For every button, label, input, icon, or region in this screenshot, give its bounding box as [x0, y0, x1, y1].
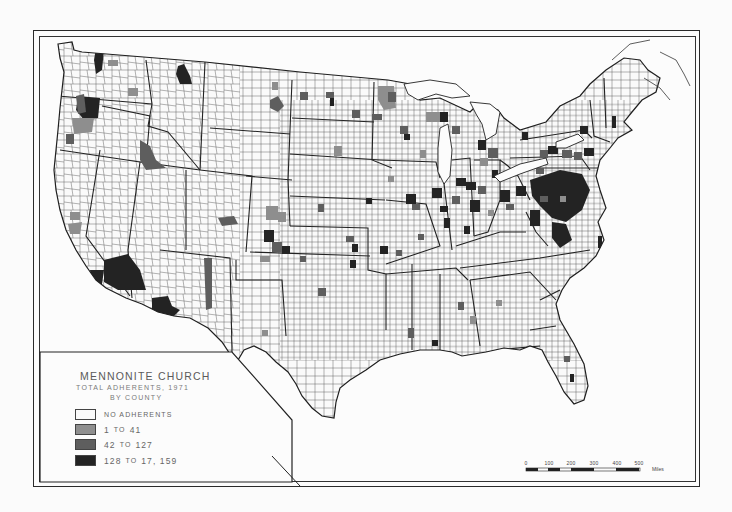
legend-label-high-to: TO	[125, 457, 137, 464]
legend-swatch-none	[75, 409, 96, 420]
scale-tick-200: 200	[566, 460, 575, 466]
scale-tick-500: 500	[634, 460, 643, 466]
legend-label-mid-max: 127	[135, 440, 152, 450]
legend-label-low-max: 41	[130, 425, 142, 435]
legend-label-none: NO ADHERENTS	[104, 411, 172, 418]
legend-item-low: 1 TO 41	[75, 423, 141, 436]
legend-item-mid: 42 TO 127	[75, 438, 153, 451]
legend-item-high: 128 TO 17, 159	[75, 454, 177, 467]
map-title: MENNONITE CHURCH	[80, 370, 211, 382]
scale-unit: Miles	[652, 466, 664, 472]
scale-tick-100: 100	[544, 460, 553, 466]
scale-tick-400: 400	[612, 460, 621, 466]
legend: MENNONITE CHURCH TOTAL ADHERENTS, 1971 B…	[40, 344, 290, 484]
scale-bar: 0 100 200 300 400 500 Miles	[520, 460, 690, 480]
legend-label-low-to: TO	[114, 426, 126, 433]
legend-item-none: NO ADHERENTS	[75, 408, 172, 421]
map-subtitle-2: BY COUNTY	[110, 394, 162, 401]
legend-label-high-max: 17, 159	[141, 456, 177, 466]
legend-label-mid-min: 42	[104, 440, 116, 450]
legend-swatch-high	[75, 455, 96, 466]
scale-tick-0: 0	[524, 460, 527, 466]
legend-label-mid-to: TO	[120, 441, 132, 448]
map-subtitle: TOTAL ADHERENTS, 1971	[76, 384, 189, 391]
legend-swatch-low	[75, 424, 96, 435]
legend-swatch-mid	[75, 439, 96, 450]
scale-tick-300: 300	[589, 460, 598, 466]
legend-label-low-min: 1	[104, 425, 110, 435]
legend-label-high-min: 128	[104, 456, 121, 466]
